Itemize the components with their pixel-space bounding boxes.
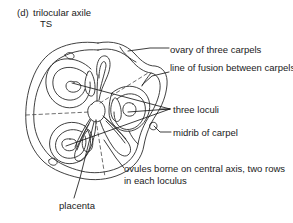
figure-trilocular-axile-ts: (d) trilocular axile TS xyxy=(0,0,293,223)
dashed-axis-horizontal xyxy=(26,112,90,115)
label-ovules-borne-on-central-axis: ovules borne on central axis, two rows i… xyxy=(124,163,292,187)
septum-lower-right-inner xyxy=(106,121,125,143)
placental-arm-up xyxy=(97,75,98,101)
central-axis-column xyxy=(88,101,105,122)
loculus-right xyxy=(109,86,150,131)
ovule-row-upper-left-b xyxy=(66,81,81,92)
label-ovary-of-three-carpels: ovary of three carpels xyxy=(170,44,261,56)
label-three-loculi: three loculi xyxy=(173,104,219,116)
leader-ovules xyxy=(104,140,124,168)
symmetry-dashed-lines xyxy=(26,73,148,177)
dashed-axis-lower xyxy=(96,120,105,177)
label-line-of-fusion-between-carpels: line of fusion between carpels xyxy=(170,62,293,74)
leader-ovary xyxy=(128,48,169,51)
fusion-line-lower-right xyxy=(129,131,138,144)
label-placenta: placenta xyxy=(59,200,95,212)
midrib-carpel-right xyxy=(150,122,158,130)
septum-upper-inner xyxy=(99,62,106,90)
fusion-line-top xyxy=(120,47,136,62)
leader-loculi-to-upperleft xyxy=(72,83,170,109)
midrib-marks xyxy=(49,53,157,166)
loculus-upper-left-inner xyxy=(53,67,87,100)
ovule-row-right-b xyxy=(123,103,136,117)
ovary-cross-section-drawing xyxy=(0,0,293,223)
leader-loculi-to-lowerleft xyxy=(66,109,170,146)
midrib-carpel-lower-left xyxy=(49,158,58,165)
ovule-row-right-a xyxy=(111,98,122,122)
label-midrib-of-carpel: midrib of carpel xyxy=(173,127,238,139)
septum-lower-right xyxy=(100,117,131,156)
